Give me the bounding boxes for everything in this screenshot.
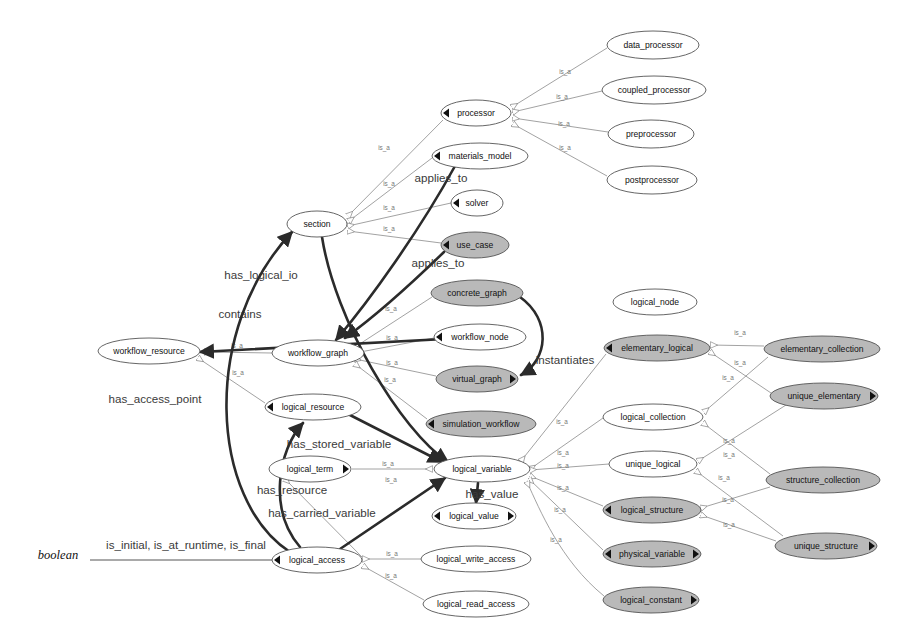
isa-edge: is_a [530,462,609,470]
isa-edge: is_a [711,329,764,346]
node-label: virtual_graph [452,374,502,384]
graph-node[interactable]: unique_structure [775,533,877,559]
graph-node[interactable]: logical_term [269,456,351,482]
node-label: logical_resource [282,402,345,412]
isa-edge: is_a [363,566,424,600]
isa-edge-label: is_a [382,460,394,468]
isa-edge-label: is_a [556,93,568,101]
graph-node[interactable]: logical_access [272,547,362,573]
isa-edge-label: is_a [232,369,244,377]
isa-edge-label: is_a [378,144,390,152]
graph-node[interactable]: data_processor [607,31,699,59]
node-label: unique_elementary [787,391,861,401]
graph-node[interactable]: materials_model [432,143,528,169]
isa-edge: is_a [521,354,606,461]
relation-edge-label: has_resource [257,483,327,496]
isa-edge-label: is_a [386,550,398,558]
node-label: structure_collection [786,475,860,485]
node-label: logical_value [449,511,499,521]
graph-node[interactable]: logical_node [613,289,697,315]
ontology-graph: is_ais_ais_ais_ais_ais_ais_ais_ais_ais_a… [0,0,911,644]
graph-node[interactable]: structure_collection [766,467,880,493]
node-label: logical_constant [620,595,682,605]
node-label: postprocessor [625,175,679,185]
graph-node[interactable]: workflow_resource [98,338,200,364]
graph-node[interactable]: preprocessor [608,120,694,148]
node-label: logical_access [289,555,345,565]
graph-node[interactable]: concrete_graph [431,280,523,306]
graph-node[interactable]: section [287,211,347,237]
graph-node[interactable]: logical_value [432,503,516,529]
graph-node[interactable]: unique_logical [609,451,697,477]
graph-node[interactable]: logical_write_access [421,546,531,572]
isa-edge-label: is_a [384,376,396,384]
node-label: preprocessor [626,129,676,139]
graph-node[interactable]: coupled_processor [602,76,706,104]
graph-node[interactable]: logical_structure [603,497,701,523]
relation-edge-label: applies_to [412,256,465,269]
isa-edge-label: is_a [734,329,746,337]
graph-node[interactable]: elementary_collection [764,336,880,362]
node-label: physical_variable [619,549,685,559]
diagram-canvas: is_ais_ais_ais_ais_ais_ais_ais_ais_ais_a… [0,0,911,644]
graph-node[interactable]: elementary_logical [604,335,710,361]
isa-edge: is_a [349,158,432,221]
node-label: elementary_logical [621,343,693,353]
isa-edge-label: is_a [383,225,395,233]
isa-edge: is_a [348,203,451,226]
isa-edge-label: is_a [386,359,398,367]
node-label: logical_term [287,464,333,474]
isa-edge-label: is_a [554,506,566,514]
graph-node[interactable]: simulation_workflow [426,411,536,437]
isa-edge: is_a [701,515,776,541]
node-label: processor [457,108,495,118]
graph-node[interactable]: postprocessor [607,166,697,194]
isa-edge-label: is_a [722,496,734,504]
graph-node[interactable]: unique_elementary [770,383,878,409]
graph-node[interactable]: logical_read_access [423,591,529,617]
isa-edge-label: is_a [558,120,570,128]
graph-node[interactable]: processor [441,100,511,126]
graph-node[interactable]: physical_variable [603,541,701,567]
node-label: simulation_workflow [443,419,521,429]
isa-edge: is_a [348,225,441,243]
isa-edge: is_a [513,91,602,112]
isa-edge: is_a [701,487,770,508]
node-label: logical_node [631,297,679,307]
graph-node[interactable]: use_case [441,232,509,258]
node-label: workflow_resource [112,346,185,356]
graph-node[interactable]: virtual_graph [436,366,518,392]
isa-edge-label: is_a [559,68,571,76]
isa-edge-label: is_a [383,180,395,188]
isa-edge: is_a [198,358,265,403]
node-label: logical_collection [621,412,686,422]
isa-edge-label: is_a [557,449,569,457]
graph-node[interactable]: workflow_graph [272,340,364,366]
node-label: use_case [457,240,494,250]
graph-node[interactable]: logical_constant [603,587,699,613]
relation-edge-label: instantiates [536,353,595,366]
graph-node[interactable]: logical_collection [603,404,703,430]
node-layer: data_processorcoupled_processorpreproces… [98,31,880,617]
graph-node[interactable]: logical_variable [434,456,530,482]
isa-edge-label: is_a [550,536,562,544]
node-label: logical_read_access [437,599,515,609]
isa-edge-label: is_a [385,572,397,580]
node-label: workflow_node [450,332,509,342]
node-label: workflow_graph [287,348,348,358]
isa-edge: is_a [513,124,607,176]
isa-edge-label: is_a [723,521,735,529]
node-label: coupled_processor [618,85,691,95]
relation-edge-label: applies_to [415,171,468,184]
node-label: concrete_graph [447,288,507,298]
graph-node[interactable]: solver [451,190,503,216]
graph-node[interactable]: workflow_node [434,324,526,350]
isa-edge: is_a [363,550,421,559]
relation-edge: has_value [466,483,519,503]
isa-edge-label: is_a [734,359,746,367]
isa-edge: is_a [348,120,443,216]
node-label: data_processor [623,40,682,50]
isa-edge-label: is_a [556,418,568,426]
isa-edge: is_a [527,482,604,596]
graph-node[interactable]: logical_resource [265,394,361,420]
